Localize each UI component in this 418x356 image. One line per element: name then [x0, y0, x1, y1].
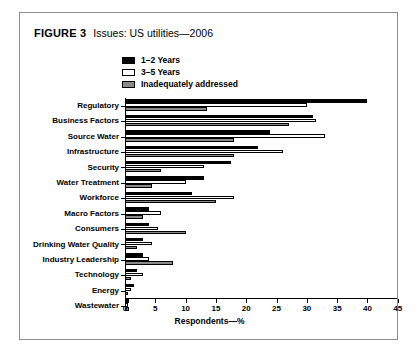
bar-inadequately-addressed	[125, 215, 143, 218]
bar-inadequately-addressed	[125, 138, 234, 141]
y-axis-tick	[121, 244, 125, 245]
bar-group	[125, 190, 398, 205]
bar-1-2-years	[125, 192, 192, 195]
y-axis-label: Industry Leadership	[20, 252, 124, 267]
y-axis-tick	[121, 291, 125, 292]
x-axis-tick-label: 40	[363, 304, 372, 313]
x-axis-tick-label: 20	[242, 304, 251, 313]
y-axis-tick	[121, 260, 125, 261]
y-axis-label: Macro Factors	[20, 206, 124, 221]
bar-3-5-years	[125, 103, 307, 106]
y-axis-label: Security	[20, 160, 124, 175]
x-axis-tick-label: 45	[393, 304, 402, 313]
bar-groups	[125, 98, 398, 298]
x-axis-tick	[337, 299, 338, 303]
y-axis-label: Source Water	[20, 129, 124, 144]
bar-1-2-years	[125, 238, 143, 241]
bar-3-5-years	[125, 196, 234, 199]
x-axis-tick-label: 0	[123, 304, 127, 313]
bar-3-5-years	[125, 134, 325, 137]
x-axis-tick	[277, 299, 278, 303]
x-axis-tick-label: 30	[302, 304, 311, 313]
bar-1-2-years	[125, 99, 367, 102]
bar-1-2-years	[125, 176, 204, 179]
bar-inadequately-addressed	[125, 246, 137, 249]
bar-1-2-years	[125, 269, 137, 272]
y-axis-tick	[121, 229, 125, 230]
x-axis-tick	[367, 299, 368, 303]
bar-group	[125, 221, 398, 236]
y-axis-label: Drinking Water Quality	[20, 237, 124, 252]
x-axis-tick	[186, 299, 187, 303]
bar-1-2-years	[125, 207, 149, 210]
bar-1-2-years	[125, 161, 231, 164]
bar-group	[125, 113, 398, 128]
x-axis-tick	[398, 299, 399, 303]
bar-group	[125, 283, 398, 298]
y-axis-label: Wastewater	[20, 298, 124, 313]
x-axis-tick-label: 10	[181, 304, 190, 313]
x-axis-tick	[155, 299, 156, 303]
y-axis-label: Regulatory	[20, 98, 124, 113]
bar-1-2-years	[125, 284, 134, 287]
y-axis-category-labels: RegulatoryBusiness FactorsSource WaterIn…	[20, 98, 124, 313]
bar-group	[125, 252, 398, 267]
bar-3-5-years	[125, 180, 186, 183]
x-axis-tick	[216, 299, 217, 303]
y-axis-label: Workforce	[20, 190, 124, 205]
bar-3-5-years	[125, 227, 158, 230]
bar-3-5-years	[125, 288, 131, 291]
bar-3-5-years	[125, 242, 152, 245]
bar-inadequately-addressed	[125, 231, 186, 234]
x-axis-tick	[246, 299, 247, 303]
bar-inadequately-addressed	[125, 169, 161, 172]
bar-1-2-years	[125, 223, 149, 226]
bar-group	[125, 98, 398, 113]
y-axis-line	[125, 98, 126, 298]
bar-3-5-years	[125, 273, 143, 276]
y-axis-tick	[121, 167, 125, 168]
bar-group	[125, 175, 398, 190]
y-axis-label: Water Treatment	[20, 175, 124, 190]
x-axis-tick-label: 5	[153, 304, 157, 313]
y-axis-label: Consumers	[20, 221, 124, 236]
bar-group	[125, 267, 398, 282]
y-axis-tick	[121, 152, 125, 153]
y-axis-tick	[121, 121, 125, 122]
bar-inadequately-addressed	[125, 261, 173, 264]
bar-group	[125, 237, 398, 252]
y-axis-tick	[121, 183, 125, 184]
y-axis-tick	[121, 275, 125, 276]
figure-panel: FIGURE 3 Issues: US utilities—2006 1–2 Y…	[19, 12, 398, 340]
bar-inadequately-addressed	[125, 154, 234, 157]
bar-inadequately-addressed	[125, 200, 216, 203]
bar-1-2-years	[125, 115, 313, 118]
bar-1-2-years	[125, 253, 143, 256]
bar-3-5-years	[125, 165, 204, 168]
bar-group	[125, 206, 398, 221]
bar-inadequately-addressed	[125, 184, 152, 187]
x-axis-tick-label: 15	[211, 304, 220, 313]
bar-3-5-years	[125, 150, 283, 153]
x-axis-tick	[125, 299, 126, 303]
y-axis-label: Technology	[20, 267, 124, 282]
bar-inadequately-addressed	[125, 277, 131, 280]
bar-3-5-years	[125, 211, 161, 214]
bar-3-5-years	[125, 119, 316, 122]
bar-group	[125, 144, 398, 159]
x-axis-tick-label: 35	[333, 304, 342, 313]
y-axis-tick	[121, 137, 125, 138]
y-axis-label: Infrastructure	[20, 144, 124, 159]
x-axis-tick	[307, 299, 308, 303]
y-axis-tick	[121, 106, 125, 107]
plot-area: RegulatoryBusiness FactorsSource WaterIn…	[20, 13, 399, 341]
x-axis-title: Respondents—%	[20, 316, 399, 326]
bar-inadequately-addressed	[125, 107, 207, 110]
bar-inadequately-addressed	[125, 123, 289, 126]
bar-group	[125, 160, 398, 175]
bar-3-5-years	[125, 257, 149, 260]
bar-1-2-years	[125, 146, 258, 149]
y-axis-tick	[121, 198, 125, 199]
bar-1-2-years	[125, 130, 270, 133]
bar-group	[125, 298, 398, 313]
